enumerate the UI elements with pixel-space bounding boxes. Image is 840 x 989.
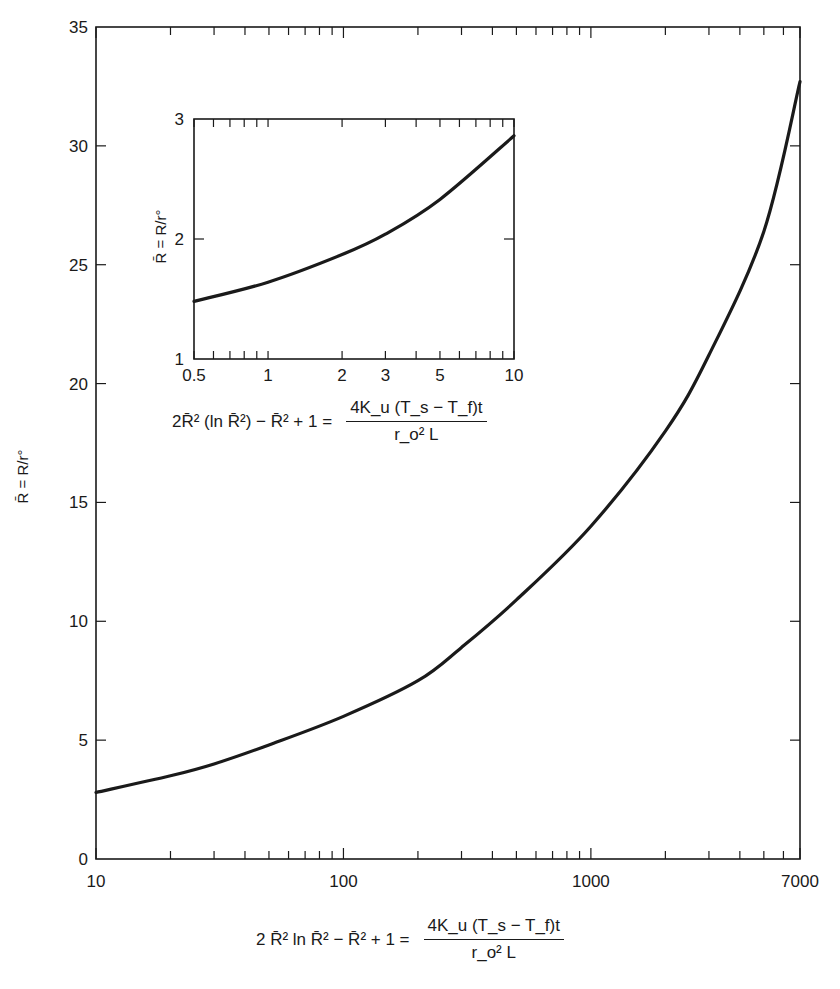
x-tick-label: 10 (87, 872, 106, 891)
inset-plot: 0.5123510123 (175, 110, 524, 385)
inset-formula-lhs: 2R̄² (ln R̄²) − R̄² + 1 = (172, 412, 332, 432)
inset-y-title-text: R̄ = R/r° (152, 210, 169, 264)
main-formula-numerator: 4K_u (T_s − T_f)t (424, 916, 564, 940)
inset-formula-numerator: 4K_u (T_s − T_f)t (346, 398, 486, 422)
main-formula-lhs: 2 R̄² ln R̄² − R̄² + 1 = (256, 930, 410, 950)
y-tick-label: 1 (175, 350, 184, 369)
inset-y-axis-title: R̄ = R/r° (152, 187, 169, 287)
x-tick-label: 2 (337, 366, 346, 385)
y-tick-label: 35 (69, 18, 88, 37)
y-tick-label: 20 (69, 375, 88, 394)
y-tick-label: 3 (175, 110, 184, 129)
y-tick-label: 25 (69, 256, 88, 275)
y-title-text: R̄ = R/r° (14, 450, 31, 504)
x-tick-label: 10 (505, 366, 524, 385)
y-tick-label: 10 (69, 612, 88, 631)
y-tick-label: 0 (79, 850, 88, 869)
y-tick-label: 30 (69, 137, 88, 156)
x-tick-label: 3 (381, 366, 390, 385)
x-tick-label: 1 (263, 366, 272, 385)
x-tick-label: 100 (329, 872, 357, 891)
inset-x-ticks (194, 119, 514, 359)
inset-formula-denominator: r_o² L (394, 422, 438, 445)
y-tick-label: 15 (69, 493, 88, 512)
inset-curve (194, 136, 514, 302)
x-tick-label: 1000 (572, 872, 610, 891)
y-tick-label: 5 (79, 731, 88, 750)
main-formula-fraction: 4K_u (T_s − T_f)t r_o² L (424, 916, 564, 963)
main-plot: 101001000700005101520253035 (69, 18, 819, 891)
x-tick-label: 5 (435, 366, 444, 385)
chart-canvas: 101001000700005101520253035 0.5123510123 (0, 0, 840, 989)
x-tick-label: 7000 (781, 872, 819, 891)
main-y-axis-title: R̄ = R/r° (14, 427, 31, 527)
main-x-axis-formula: 2 R̄² ln R̄² − R̄² + 1 = 4K_u (T_s − T_f… (256, 916, 564, 963)
inset-frame (194, 119, 514, 359)
inset-x-axis-formula: 2R̄² (ln R̄²) − R̄² + 1 = 4K_u (T_s − T_… (172, 398, 487, 445)
main-formula-denominator: r_o² L (472, 940, 516, 963)
y-tick-label: 2 (175, 230, 184, 249)
inset-formula-fraction: 4K_u (T_s − T_f)t r_o² L (346, 398, 486, 445)
x-tick-label: 0.5 (182, 366, 206, 385)
